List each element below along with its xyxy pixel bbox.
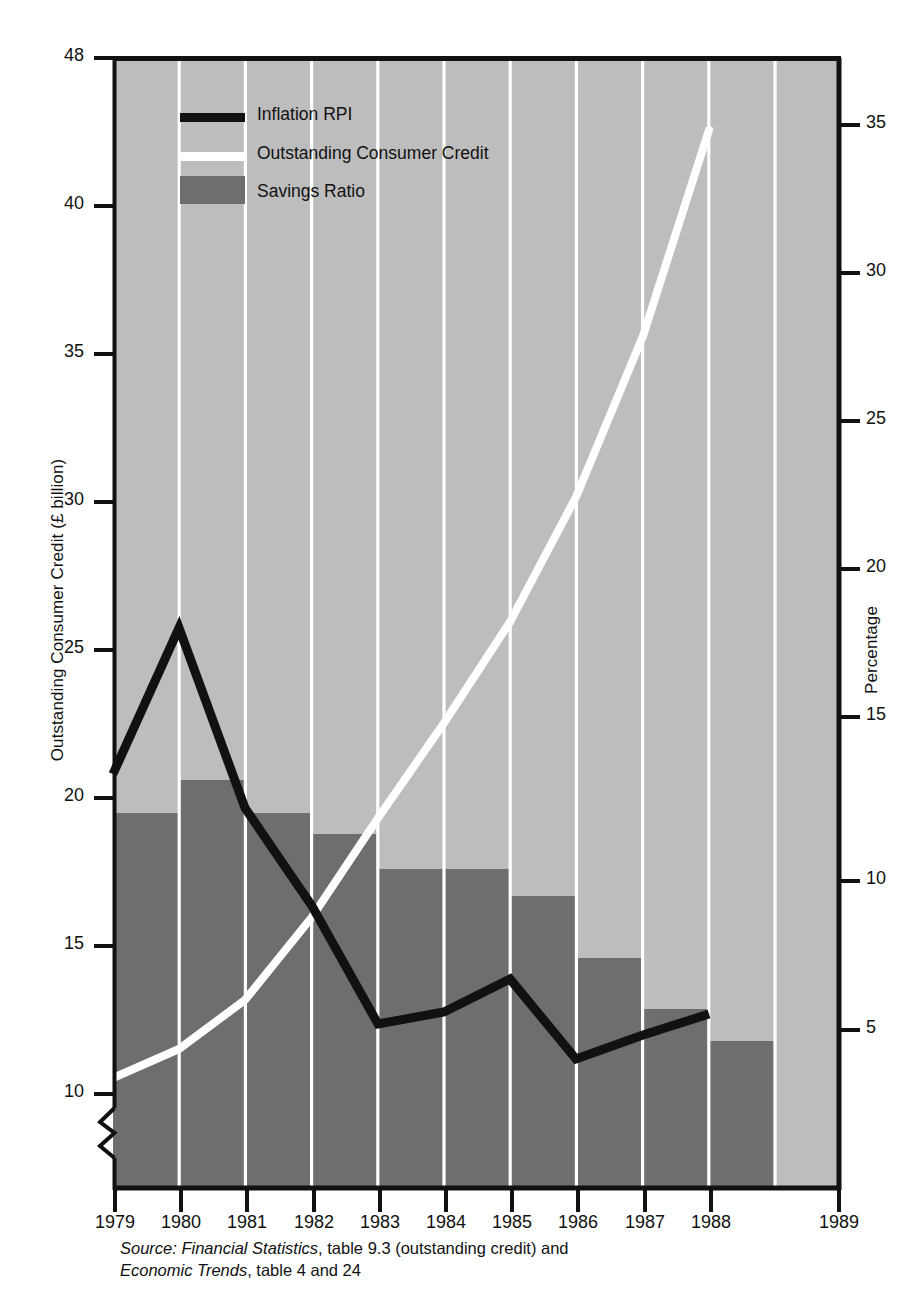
source-publication-2: Economic Trends xyxy=(120,1261,247,1279)
y2tick-label-30: 30 xyxy=(866,260,908,281)
bar-1981 xyxy=(245,813,311,1190)
xtick-label-1986: 1986 xyxy=(543,1212,613,1233)
xtick-mark-1984 xyxy=(444,1190,448,1212)
xtick-label-1981: 1981 xyxy=(212,1212,282,1233)
source-note-line-1: Source: Financial Statistics, table 9.3 … xyxy=(120,1237,820,1259)
ytick-mark-20 xyxy=(94,796,114,800)
y-axis-left-title: Outstanding Consumer Credit (£ billion) xyxy=(48,400,68,820)
legend-swatch-inflation-rpi xyxy=(180,113,245,122)
y2tick-label-35: 35 xyxy=(866,112,908,133)
bar-1984 xyxy=(444,869,510,1190)
source-rest-1: , table 9.3 (outstanding credit) and xyxy=(318,1239,568,1257)
xtick-label-1988: 1988 xyxy=(676,1212,746,1233)
legend-swatch-outstanding-consumer-credit xyxy=(180,152,245,161)
y2tick-mark-30 xyxy=(841,271,860,275)
xtick-mark-1982 xyxy=(312,1190,316,1212)
ytick-label-15: 15 xyxy=(30,933,84,954)
legend-swatch-savings-ratio xyxy=(180,176,245,204)
y2tick-mark-25 xyxy=(841,419,860,423)
source-note: Source: Financial Statistics, table 9.3 … xyxy=(120,1237,820,1282)
xtick-label-1989: 1989 xyxy=(804,1212,874,1233)
ytick-label-48: 48 xyxy=(30,45,84,66)
source-note-line-2: Economic Trends, table 4 and 24 xyxy=(120,1259,820,1281)
xtick-label-1980: 1980 xyxy=(146,1212,216,1233)
ytick-mark-30 xyxy=(94,500,114,504)
bar-1980 xyxy=(179,780,245,1190)
y2tick-label-25: 25 xyxy=(866,408,908,429)
source-prefix: Source: xyxy=(120,1239,181,1257)
axis-break-zigzag xyxy=(100,1108,115,1158)
chart-container: 48 40 35 30 25 20 15 10 Outstanding Cons… xyxy=(0,0,908,1300)
ytick-mark-40 xyxy=(94,204,114,208)
xtick-mark-1986 xyxy=(576,1190,580,1212)
y2tick-label-10: 10 xyxy=(866,868,908,889)
bar-1988 xyxy=(709,1041,775,1190)
bar-1983 xyxy=(378,869,444,1190)
legend-label-savings-ratio: Savings Ratio xyxy=(257,181,365,202)
xtick-label-1983: 1983 xyxy=(345,1212,415,1233)
xtick-label-1982: 1982 xyxy=(279,1212,349,1233)
bar-1986 xyxy=(576,958,642,1190)
legend-label-inflation-rpi: Inflation RPI xyxy=(257,104,352,125)
ytick-mark-48 xyxy=(94,56,114,60)
y2tick-label-5: 5 xyxy=(866,1017,908,1038)
source-publication-1: Financial Statistics xyxy=(181,1239,318,1257)
source-rest-2: , table 4 and 24 xyxy=(247,1261,361,1279)
xtick-mark-1985 xyxy=(510,1190,514,1212)
chart-plot-svg xyxy=(0,0,908,1300)
ytick-mark-35 xyxy=(94,352,114,356)
xtick-mark-1987 xyxy=(643,1190,647,1212)
xtick-mark-1980 xyxy=(179,1190,183,1212)
xtick-mark-1988 xyxy=(709,1190,713,1212)
xtick-label-1984: 1984 xyxy=(411,1212,481,1233)
ytick-label-40: 40 xyxy=(30,193,84,214)
y2tick-mark-10 xyxy=(841,879,860,883)
xtick-mark-1983 xyxy=(378,1190,382,1212)
xtick-label-1987: 1987 xyxy=(610,1212,680,1233)
ytick-mark-10 xyxy=(94,1092,114,1096)
xtick-mark-1989 xyxy=(837,1190,841,1212)
y2tick-mark-5 xyxy=(841,1028,860,1032)
ytick-mark-25 xyxy=(94,648,114,652)
ytick-mark-15 xyxy=(94,944,114,948)
bar-1979 xyxy=(113,813,179,1190)
y-axis-right-title: Percentage xyxy=(862,520,882,780)
xtick-label-1979: 1979 xyxy=(80,1212,150,1233)
y2tick-mark-20 xyxy=(841,567,860,571)
ytick-label-10: 10 xyxy=(30,1081,84,1102)
xtick-mark-1981 xyxy=(245,1190,249,1212)
xtick-mark-1979 xyxy=(113,1190,117,1212)
xtick-label-1985: 1985 xyxy=(477,1212,547,1233)
y2tick-mark-15 xyxy=(841,715,860,719)
ytick-label-35: 35 xyxy=(30,341,84,362)
y2tick-mark-35 xyxy=(841,123,860,127)
legend-label-outstanding-consumer-credit: Outstanding Consumer Credit xyxy=(257,143,489,164)
